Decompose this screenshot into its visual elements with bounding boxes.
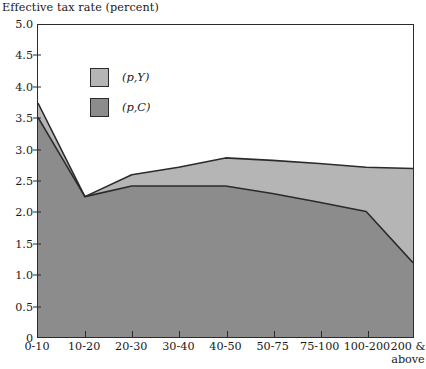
y-axis-tick-mark [33,306,41,307]
x-axis-tick-mark [85,331,86,338]
legend-item-p-c: (p,C) [90,96,210,118]
y-axis-tick-label: 1.0 [3,270,33,281]
x-axis-tick-mark [227,331,228,338]
chart-legend: (p,Y) (p,C) [90,66,210,126]
x-axis-tick-label-group: 0-1010-2020-3030-4040-5050-7575-100100-2… [0,341,426,369]
x-axis-tick-label: 0-10 [24,341,49,354]
x-axis-tick-label: 200 &above [386,341,426,366]
x-axis-tick-mark [179,331,180,338]
y-axis-tick-mark [33,275,41,276]
x-axis-tick-label: 50-75 [256,341,288,354]
x-axis-tick-mark [274,331,275,338]
x-axis-tick-label: 75-100 [300,341,339,354]
legend-label-p-c: (p,C) [122,100,151,114]
y-axis-tick-mark [33,149,41,150]
x-axis-tick-mark [368,331,369,338]
x-axis-tick-label: 20-30 [115,341,147,354]
y-axis-tick-label: 3.0 [3,144,33,155]
y-axis-tick-mark [33,86,41,87]
y-axis-tick-label: 5.0 [3,19,33,30]
y-axis-tick-label: 2.0 [3,207,33,218]
area-series-p-c [38,117,413,337]
plot-area: (p,Y) (p,C) [37,24,414,338]
y-axis-tick-mark [33,55,41,56]
x-axis-tick-label: 100-200 [344,341,391,354]
y-axis-tick-mark [33,118,41,119]
x-axis-tick-mark [321,331,322,338]
legend-item-p-y: (p,Y) [90,66,210,88]
y-axis-tick-label: 0.5 [3,301,33,312]
y-axis-tick-label-group: 00.51.01.52.02.53.03.54.04.55.0 [0,0,33,369]
y-axis-tick-label: 2.5 [3,176,33,187]
chart-figure: Effective tax rate (percent) 00.51.01.52… [0,0,426,369]
y-axis-tick-label: 3.5 [3,113,33,124]
y-axis-tick-mark [33,181,41,182]
y-axis-tick-label: 1.5 [3,238,33,249]
y-axis-tick-mark [33,243,41,244]
legend-swatch-p-c [90,98,109,117]
x-axis-tick-label: 40-50 [209,341,241,354]
legend-swatch-p-y [90,68,109,87]
y-axis-tick-label: 4.5 [3,50,33,61]
x-axis-tick-label: 30-40 [162,341,194,354]
y-axis-tick-mark [33,212,41,213]
legend-label-p-y: (p,Y) [122,70,149,84]
y-axis-tick-label: 4.0 [3,81,33,92]
x-axis-tick-label: 10-20 [68,341,100,354]
x-axis-tick-mark [132,331,133,338]
x-axis-tick-label-line2: above [386,354,426,367]
